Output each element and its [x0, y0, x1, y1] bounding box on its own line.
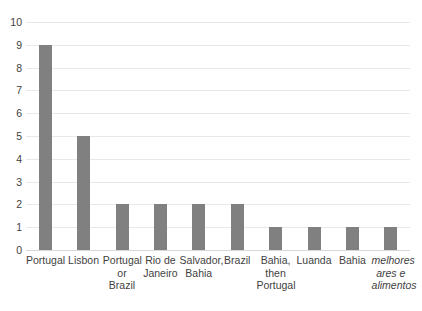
x-tick-label: Portugal [26, 254, 64, 267]
x-tick-label: melhores ares e alimentos [372, 254, 410, 292]
y-tick-label: 2 [0, 199, 22, 209]
x-tick-label: Portugal or Brazil [103, 254, 141, 292]
bar [77, 136, 90, 250]
bar [346, 227, 359, 250]
x-tick-label: Salvador, Bahia [180, 254, 218, 279]
y-tick-label: 6 [0, 108, 22, 118]
y-tick-label: 5 [0, 131, 22, 141]
bar-chart: 012345678910 PortugalLisbonPortugal or B… [0, 0, 422, 311]
x-tick-label: Lisbon [64, 254, 102, 267]
bars-group [26, 22, 410, 250]
y-tick-label: 8 [0, 63, 22, 73]
x-tick-label: Bahia, then Portugal [256, 254, 294, 292]
bar [154, 204, 167, 250]
y-tick-label: 10 [0, 17, 22, 27]
bar [116, 204, 129, 250]
bar [384, 227, 397, 250]
bar [192, 204, 205, 250]
bar [39, 45, 52, 250]
gridline [26, 250, 410, 251]
y-axis: 012345678910 [0, 22, 22, 250]
x-axis: PortugalLisbonPortugal or BrazilRio de J… [26, 254, 410, 311]
y-tick-label: 7 [0, 85, 22, 95]
x-tick-label: Rio de Janeiro [141, 254, 179, 279]
y-tick-label: 9 [0, 40, 22, 50]
y-tick-label: 1 [0, 222, 22, 232]
y-tick-label: 0 [0, 245, 22, 255]
bar [308, 227, 321, 250]
x-tick-label: Brazil [218, 254, 256, 267]
bar [269, 227, 282, 250]
x-tick-label: Bahia [333, 254, 371, 267]
bar [231, 204, 244, 250]
plot-area [26, 22, 410, 250]
y-tick-label: 3 [0, 177, 22, 187]
y-tick-label: 4 [0, 154, 22, 164]
x-tick-label: Luanda [295, 254, 333, 267]
